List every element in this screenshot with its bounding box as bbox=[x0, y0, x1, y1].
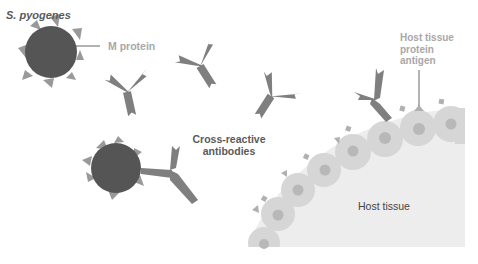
bacterium-top bbox=[18, 14, 84, 88]
bacterium-body-2 bbox=[91, 143, 141, 193]
host-antigen-label: Host tissue protein antigen bbox=[400, 32, 460, 67]
antibody-2 bbox=[173, 37, 233, 97]
antibody-1 bbox=[104, 68, 155, 119]
species-label: S. pyogenes bbox=[6, 9, 71, 21]
m-protein-label: M protein bbox=[108, 40, 155, 52]
host-tissue-label: Host tissue bbox=[358, 200, 410, 212]
cross-reactive-label: Cross-reactive antibodies bbox=[186, 133, 272, 157]
host-tissue bbox=[248, 95, 478, 264]
antibody-3 bbox=[241, 68, 302, 129]
bacterium-body bbox=[25, 26, 77, 78]
bacterium-bottom bbox=[82, 136, 144, 200]
